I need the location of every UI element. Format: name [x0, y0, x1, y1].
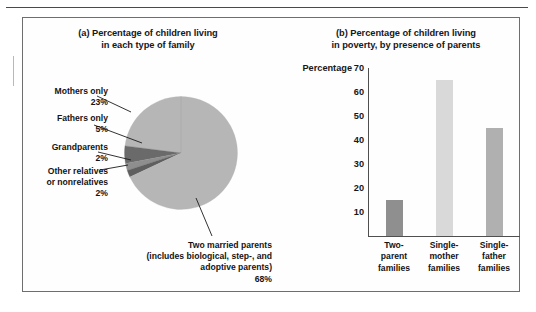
y-tick-10: 10 — [338, 208, 364, 217]
pie-label-fathers-only: Fathers only 5% — [14, 113, 108, 135]
x-label-two-parent-families-line2: parent — [367, 251, 421, 262]
pie-label-fathers-only-value: 5% — [14, 124, 108, 135]
bar-two-parent-families — [386, 200, 403, 236]
pie-chart — [124, 96, 238, 210]
x-label-single-mother-families: Single-motherfamilies — [417, 240, 471, 274]
pie-label-two-married-parents-line2: (includes biological, step-, and — [96, 251, 272, 262]
pie-label-grandparents-value: 2% — [6, 153, 108, 164]
x-label-two-parent-families: Two-parentfamilies — [367, 240, 421, 274]
x-axis-line — [368, 236, 520, 237]
y-tick-20: 20 — [338, 184, 364, 193]
pie-label-other-relatives-line2: or nonrelatives — [2, 177, 108, 188]
pie-label-two-married-parents: Two married parents (includes biological… — [96, 240, 272, 285]
figure-root: (a) Percentage of children living in eac… — [0, 0, 536, 312]
y-tick-30: 30 — [338, 160, 364, 169]
pie-label-grandparents-name: Grandparents — [6, 142, 108, 153]
pie-label-mothers-only-value: 23% — [14, 97, 108, 108]
x-label-two-parent-families-line3: families — [367, 263, 421, 274]
pie-label-fathers-only-name: Fathers only — [14, 113, 108, 124]
x-label-two-parent-families-line1: Two- — [367, 240, 421, 251]
x-label-single-mother-families-line1: Single- — [417, 240, 471, 251]
x-label-single-father-families-line2: father — [467, 251, 521, 262]
bar-single-mother-families — [436, 80, 453, 236]
x-label-single-father-families-line3: families — [467, 263, 521, 274]
x-label-single-mother-families-line3: families — [417, 263, 471, 274]
pie-label-grandparents: Grandparents 2% — [6, 142, 108, 164]
x-label-single-father-families-line1: Single- — [467, 240, 521, 251]
pie-label-mothers-only: Mothers only 23% — [14, 86, 108, 108]
pie-slice-mothers-only — [125, 97, 181, 154]
y-tick-50: 50 — [338, 112, 364, 121]
pie-slices — [124, 96, 238, 210]
pie-label-mothers-only-name: Mothers only — [14, 86, 108, 97]
bar-chart-panel: Percentage 10203040506070 Two-parentfami… — [272, 0, 536, 275]
pie-chart-panel: Mothers only 23% Fathers only 5% Grandpa… — [0, 0, 290, 275]
pie-label-two-married-parents-line3: adoptive parents) — [96, 262, 272, 273]
bar-single-father-families — [486, 128, 503, 236]
y-tick-60: 60 — [338, 88, 364, 97]
pie-label-two-married-parents-value: 68% — [96, 274, 272, 285]
bar-series — [368, 68, 520, 236]
pie-label-other-relatives-line1: Other relatives — [2, 166, 108, 177]
pie-label-other-relatives-value: 2% — [2, 188, 108, 199]
x-label-single-father-families: Single-fatherfamilies — [467, 240, 521, 274]
pie-label-other-relatives: Other relatives or nonrelatives 2% — [2, 166, 108, 200]
y-tick-40: 40 — [338, 136, 364, 145]
y-tick-70: 70 — [338, 64, 364, 73]
x-label-single-mother-families-line2: mother — [417, 251, 471, 262]
pie-label-two-married-parents-line1: Two married parents — [96, 240, 272, 251]
